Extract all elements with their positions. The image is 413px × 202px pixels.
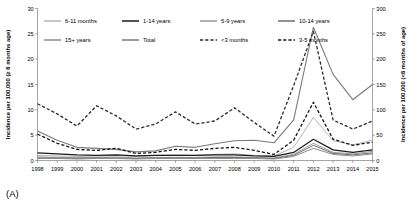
legend-label-5: Total: [143, 37, 155, 43]
y-axis-title-right: Incidence per 100,000 (<6 months of age): [400, 27, 406, 142]
legend-label-2: 5-9 years: [221, 18, 245, 24]
legend-label-4: 15+ years: [65, 37, 91, 43]
x-tick-label: 2010: [268, 166, 280, 172]
x-tick-label: 2015: [366, 166, 378, 172]
y-tick-label-left: 15: [27, 82, 33, 88]
x-tick-label: 2004: [150, 166, 162, 172]
y-tick-label-right: 150: [376, 82, 385, 88]
y-tick-label-left: 5: [31, 132, 34, 138]
y-tick-label-right: 100: [376, 107, 385, 113]
y-tick-label-left: 30: [27, 6, 33, 12]
legend-label-6: <3 months: [221, 37, 248, 43]
chart-figure: 0510152025300501001502002503001998199920…: [0, 0, 413, 202]
y-tick-label-left: 25: [27, 31, 33, 37]
x-tick-label: 2011: [288, 166, 300, 172]
y-tick-label-left: 20: [27, 56, 33, 62]
y-tick-label-right: 300: [376, 6, 385, 12]
x-tick-label: 2000: [71, 166, 83, 172]
y-tick-label-left: 10: [27, 107, 33, 113]
x-tick-label: 2014: [347, 166, 359, 172]
y-tick-label-right: 250: [376, 31, 385, 37]
y-tick-label-right: 0: [376, 158, 379, 164]
x-tick-label: 1999: [51, 166, 63, 172]
y-tick-label-right: 50: [376, 132, 382, 138]
x-tick-label: 2012: [307, 166, 319, 172]
x-tick-label: 1998: [31, 166, 43, 172]
x-tick-label: 2007: [209, 166, 221, 172]
x-tick-label: 2008: [228, 166, 240, 172]
y-tick-label-left: 0: [31, 158, 34, 164]
y-tick-label-right: 200: [376, 56, 385, 62]
x-tick-label: 2003: [130, 166, 142, 172]
x-tick-label: 2002: [110, 166, 122, 172]
x-tick-label: 2001: [90, 166, 102, 172]
series-line-total: [38, 27, 373, 152]
x-tick-label: 2013: [327, 166, 339, 172]
legend-label-1: 1-14 years: [143, 18, 170, 24]
legend-label-3: 10-14 years: [299, 18, 330, 24]
panel-label: (A): [6, 188, 19, 199]
x-tick-label: 2009: [248, 166, 260, 172]
x-tick-label: 2005: [169, 166, 181, 172]
legend-label-7: 3-5 months: [299, 37, 328, 43]
legend-label-0: 6-11 months: [65, 18, 97, 24]
incidence-line-chart: 0510152025300501001502002503001998199920…: [0, 0, 413, 202]
x-tick-label: 2006: [189, 166, 201, 172]
y-axis-title-left: Incidence per 100,000 (≥ 6 months age): [5, 30, 11, 139]
